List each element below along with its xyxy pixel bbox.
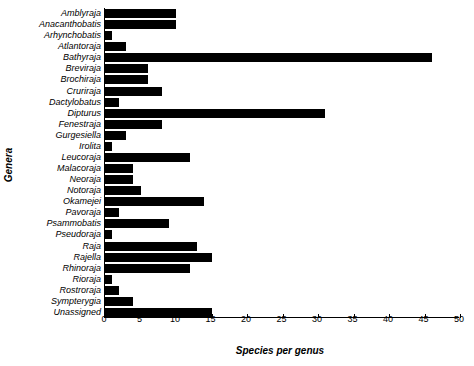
bar xyxy=(105,186,141,195)
bar-row xyxy=(105,109,325,118)
y-axis-category-label: Leucoraja xyxy=(1,153,101,162)
y-axis-category-label: Neoraja xyxy=(1,175,101,184)
y-axis-category-label: Sympterygia xyxy=(1,297,101,306)
bar xyxy=(105,109,325,118)
bar xyxy=(105,153,190,162)
bar-row xyxy=(105,230,112,239)
bar xyxy=(105,9,176,18)
bar-row xyxy=(105,98,119,107)
bar xyxy=(105,87,162,96)
y-axis-category-label: Rhinoraja xyxy=(1,264,101,273)
bar-row xyxy=(105,253,212,262)
y-axis-category-label: Irolita xyxy=(1,142,101,151)
bar xyxy=(105,253,212,262)
bar-row xyxy=(105,31,112,40)
bar-row xyxy=(105,286,119,295)
bar xyxy=(105,308,212,317)
bar-row xyxy=(105,64,148,73)
y-axis-category-label: Breviraja xyxy=(1,64,101,73)
chart-container: Genera Species per genus 051015202530354… xyxy=(0,0,474,366)
bar xyxy=(105,286,119,295)
y-axis-category-label: Gurgesiella xyxy=(1,131,101,140)
x-axis-title: Species per genus xyxy=(100,345,460,356)
bar xyxy=(105,98,119,107)
bar-row xyxy=(105,175,133,184)
bar xyxy=(105,131,126,140)
bar xyxy=(105,164,133,173)
x-axis-tick-label: 5 xyxy=(130,314,150,324)
x-axis-tick-label: 35 xyxy=(343,314,363,324)
bar xyxy=(105,242,197,251)
bar xyxy=(105,264,190,273)
bar xyxy=(105,120,162,129)
bar xyxy=(105,219,169,228)
bar xyxy=(105,142,112,151)
x-axis-tick-label: 10 xyxy=(165,314,185,324)
y-axis-category-label: Rajella xyxy=(1,253,101,262)
y-axis-category-label: Dipturus xyxy=(1,109,101,118)
x-axis-tick-label: 40 xyxy=(378,314,398,324)
y-axis-category-label: Okamejei xyxy=(1,197,101,206)
y-axis-category-label: Malacoraja xyxy=(1,164,101,173)
bar xyxy=(105,175,133,184)
bar-row xyxy=(105,20,176,29)
x-axis-tick-label: 30 xyxy=(307,314,327,324)
bar-row xyxy=(105,219,169,228)
bar-row xyxy=(105,53,432,62)
bar-row xyxy=(105,164,133,173)
y-axis-category-label: Rioraja xyxy=(1,275,101,284)
bar xyxy=(105,20,176,29)
bar-row xyxy=(105,153,190,162)
plot-area xyxy=(104,8,459,318)
bar xyxy=(105,230,112,239)
bar xyxy=(105,197,204,206)
bar-row xyxy=(105,42,126,51)
y-axis-category-label: Rostroraja xyxy=(1,286,101,295)
bar-row xyxy=(105,264,190,273)
bar-row xyxy=(105,297,133,306)
y-axis-category-label: Cruriraja xyxy=(1,87,101,96)
bar-row xyxy=(105,275,112,284)
bar-row xyxy=(105,131,126,140)
x-axis-tick-label: 25 xyxy=(272,314,292,324)
y-axis-category-label: Amblyraja xyxy=(1,9,101,18)
y-axis-category-label: Pavoraja xyxy=(1,208,101,217)
x-axis-tick-label: 20 xyxy=(236,314,256,324)
bar-row xyxy=(105,186,141,195)
bar-row xyxy=(105,120,162,129)
y-axis-category-label: Raja xyxy=(1,242,101,251)
bar-row xyxy=(105,142,112,151)
y-axis-category-label: Pseudoraja xyxy=(1,230,101,239)
y-axis-category-label: Psammobatis xyxy=(1,219,101,228)
y-axis-category-label: Atlantoraja xyxy=(1,42,101,51)
y-axis-category-label: Arhynchobatis xyxy=(1,31,101,40)
bar xyxy=(105,275,112,284)
bar-row xyxy=(105,9,176,18)
bar-row xyxy=(105,208,119,217)
y-axis-category-label: Anacanthobatis xyxy=(1,20,101,29)
y-axis-category-label: Bathyraja xyxy=(1,53,101,62)
bar-row xyxy=(105,75,148,84)
bar-row xyxy=(105,197,204,206)
y-axis-category-label: Brochiraja xyxy=(1,75,101,84)
bar xyxy=(105,64,148,73)
y-axis-category-label: Notoraja xyxy=(1,186,101,195)
bar-row xyxy=(105,242,197,251)
bar-row xyxy=(105,87,162,96)
y-axis-category-label: Dactylobatus xyxy=(1,98,101,107)
bar xyxy=(105,31,112,40)
bar xyxy=(105,53,432,62)
bar xyxy=(105,42,126,51)
bar xyxy=(105,208,119,217)
x-axis-tick-label: 45 xyxy=(414,314,434,324)
bar-row xyxy=(105,308,212,317)
x-axis-tick-label: 15 xyxy=(201,314,221,324)
y-axis-category-label: Fenestraja xyxy=(1,120,101,129)
x-axis-tick-label: 50 xyxy=(449,314,469,324)
bar xyxy=(105,297,133,306)
y-axis-category-label: Unassigned xyxy=(1,308,101,317)
bar xyxy=(105,75,148,84)
